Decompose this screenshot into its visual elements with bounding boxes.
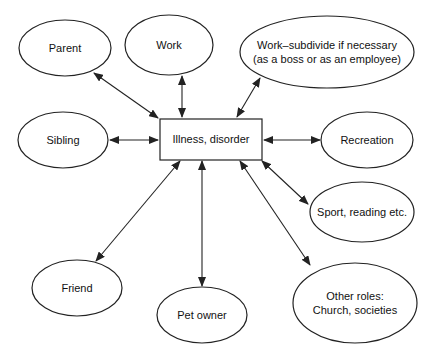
node-label: Pet owner [177,309,227,321]
node-sibling: Sibling [18,112,108,168]
node-other-roles: Other roles:Church, societies [293,263,417,343]
node-label: Recreation [340,134,393,146]
center-node: Illness, disorder [160,119,262,160]
node-label: Other roles: [326,290,383,302]
node-recreation: Recreation [321,112,413,168]
node-parent: Parent [19,20,111,76]
node-label: Parent [49,42,81,54]
node-label: Work [156,39,182,51]
node-friend: Friend [32,260,122,316]
edges-layer [94,73,320,286]
bidirectional-arrow-parent [94,73,158,118]
diagram-canvas: ParentWorkWork–subdivide if necessary(as… [0,0,434,362]
node-work-subdivide: Work–subdivide if necessary(as a boss or… [240,16,414,88]
bidirectional-arrow-friend [96,161,180,261]
bidirectional-arrow-other-roles [240,161,310,265]
node-label: (as a boss or as an employee) [253,53,401,65]
node-label: Church, societies [313,304,398,316]
node-label: Work–subdivide if necessary [257,39,397,51]
bidirectional-arrow-sport [262,161,308,204]
node-sport: Sport, reading etc. [310,182,414,242]
node-work: Work [125,15,213,75]
bidirectional-arrow-work-subdivide [237,78,260,117]
node-label: Sibling [46,134,79,146]
nodes-layer: ParentWorkWork–subdivide if necessary(as… [18,15,417,343]
node-label: Friend [61,282,92,294]
center-label: Illness, disorder [172,133,249,145]
node-pet-owner: Pet owner [157,287,247,343]
node-label: Sport, reading etc. [317,206,407,218]
